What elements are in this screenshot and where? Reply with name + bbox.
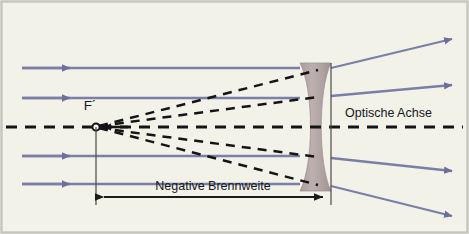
ray-diagram-canvas: F´ Optische Achse Negative Brennweite	[0, 0, 469, 234]
focal-point-label: F´	[84, 98, 97, 113]
optical-axis-label: Optische Achse	[345, 106, 432, 120]
focal-length-label: Negative Brennweite	[155, 179, 270, 193]
optics-figure: F´ Optische Achse Negative Brennweite	[0, 0, 469, 234]
